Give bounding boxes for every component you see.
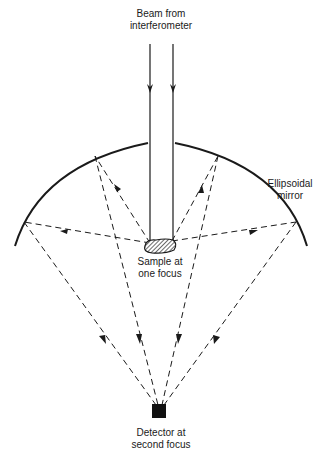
- arrow-icon: [249, 230, 258, 235]
- detector-label: Detector at second focus: [106, 427, 216, 451]
- arrow-icon: [136, 334, 142, 344]
- converging-ray-arrows: [99, 334, 220, 344]
- sample-label: Sample at one focus: [118, 256, 202, 280]
- beam-label: Beam from interferometer: [100, 8, 222, 32]
- outgoing-ray-arrows: [60, 184, 258, 235]
- arrow-icon: [176, 334, 182, 344]
- converging-rays: [24, 156, 296, 405]
- sample-blob: [145, 239, 176, 253]
- arrow-icon: [213, 335, 220, 344]
- beam-from-interferometer: [147, 44, 176, 242]
- mirror-label: Ellipsoidal mirror: [262, 178, 318, 202]
- arrow-icon: [198, 185, 204, 193]
- arrow-icon: [99, 335, 106, 344]
- diagram-canvas: [0, 0, 318, 465]
- detector-square: [152, 404, 166, 418]
- arrow-icon: [60, 229, 68, 234]
